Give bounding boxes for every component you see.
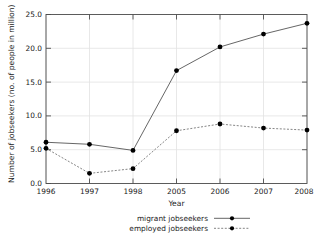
data-point [218,45,223,50]
x-axis-title: Year [167,199,185,208]
y-axis-title: Number of jobseekers (no. of people in m… [7,5,16,183]
y-tick-label: 25.0 [26,10,43,19]
legend: migrant jobseekers employed jobseekers [129,214,250,233]
y-tick-label: 20.0 [26,44,43,53]
grid-lines [46,15,307,184]
data-point [44,146,49,151]
y-tick-label: 5.0 [30,145,42,154]
x-tick-label: 1997 [80,187,99,196]
x-tick-labels: 1996 1997 1998 2005 2006 2007 2008 [37,187,314,196]
data-point [87,171,92,176]
x-tick-label: 2008 [295,187,314,196]
x-tick-label: 2007 [254,187,273,196]
y-tick-label: 10.0 [26,111,43,120]
data-point [131,166,136,171]
data-point [261,126,266,131]
data-point [44,140,49,145]
y-tick-label: 15.0 [26,78,43,87]
x-tick-label: 2005 [167,187,186,196]
data-point [87,142,92,147]
chart-figure: Number of jobseekers (no. of people in m… [0,0,327,241]
x-tick-label: 2006 [211,187,230,196]
x-tick-label: 1998 [124,187,143,196]
legend-marker-employed [230,226,234,230]
chart-canvas: Number of jobseekers (no. of people in m… [0,0,327,241]
data-point [305,128,310,133]
x-tick-label: 1996 [37,187,56,196]
data-point [261,32,266,37]
data-point [218,122,223,127]
legend-label-employed: employed jobseekers [129,224,208,233]
legend-label-migrant: migrant jobseekers [137,214,208,223]
data-point [305,21,310,26]
data-point [131,148,136,153]
data-point [174,68,179,73]
legend-marker-migrant [230,216,234,220]
data-point [174,128,179,133]
y-tick-labels: 0.0 5.0 10.0 15.0 20.0 25.0 [26,10,43,188]
